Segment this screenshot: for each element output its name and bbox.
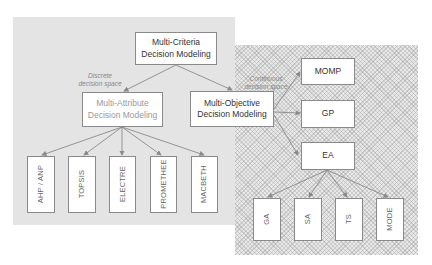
node-text: PROMETHEE <box>158 160 168 209</box>
node-text: TOPSIS <box>77 170 87 199</box>
node-promethee: PROMETHEE <box>150 156 177 213</box>
node-text: GA <box>262 214 272 225</box>
node-text: GP <box>322 108 334 119</box>
node-text: Decision Modeling <box>141 49 210 59</box>
label-text: Discrete <box>88 72 112 79</box>
label-text: decision space <box>79 80 122 87</box>
label-text: Continuous <box>250 75 283 82</box>
node-momp: MOMP <box>301 58 355 85</box>
label-text: decision space <box>245 83 288 90</box>
node-text: TS <box>344 215 354 225</box>
node-text: AHP / ANP <box>36 165 46 203</box>
node-text: MODE <box>385 208 395 231</box>
node-text: Decision Modeling <box>197 109 266 119</box>
node-topsis: TOPSIS <box>68 156 96 213</box>
node-text: MOMP <box>315 66 341 77</box>
discrete-space-label: Discretedecision space <box>74 72 126 88</box>
node-text: ELECTRE <box>117 167 127 203</box>
node-text: Multi-Objective <box>204 98 260 108</box>
node-sa: SA <box>294 198 322 241</box>
node-macbeth: MACBETH <box>191 156 218 213</box>
node-text: Multi-Criteria <box>152 37 200 47</box>
node-ts: TS <box>335 198 363 241</box>
node-gp: GP <box>301 100 355 128</box>
node-text: Multi-Attribute <box>96 98 148 108</box>
node-text: Decision Modeling <box>88 110 157 120</box>
node-ahp-anp: AHP / ANP <box>27 156 55 213</box>
node-multi-attribute-decision-modeling: Multi-AttributeDecision Modeling <box>82 92 163 127</box>
node-mode: MODE <box>376 198 404 241</box>
node-text: MACBETH <box>199 165 209 203</box>
node-multi-criteria-decision-modeling: Multi-CriteriaDecision Modeling <box>135 32 217 65</box>
continuous-space-label: Continuousdecision space <box>238 75 294 91</box>
node-ga: GA <box>253 198 281 241</box>
node-text: EA <box>322 150 333 161</box>
node-ea: EA <box>301 142 355 170</box>
node-electre: ELECTRE <box>109 156 136 213</box>
node-multi-objective-decision-modeling: Multi-ObjectiveDecision Modeling <box>190 91 274 127</box>
node-text: SA <box>303 214 313 224</box>
